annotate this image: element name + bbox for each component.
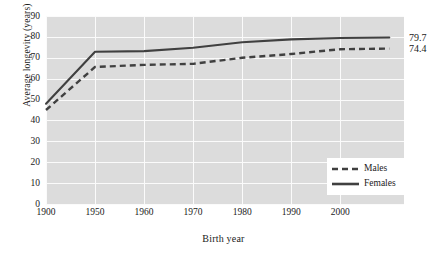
x-tick-label: 1960 xyxy=(121,208,167,218)
x-tick-label: 1900 xyxy=(23,208,69,218)
y-tick-label: 40 xyxy=(10,116,40,126)
y-tick-label: 60 xyxy=(10,74,40,84)
y-tick-label: 80 xyxy=(10,32,40,42)
dashed-line-icon xyxy=(332,161,359,177)
y-tick-label: 50 xyxy=(10,95,40,105)
longevity-line-chart: Average longevity (years) Birth year 010… xyxy=(0,0,447,260)
y-tick-label: 30 xyxy=(10,137,40,147)
solid-line-icon xyxy=(332,176,359,192)
x-tick-label: 2000 xyxy=(317,208,363,218)
y-tick-label: 70 xyxy=(10,53,40,63)
legend: Males Females xyxy=(327,158,406,195)
y-tick-label: 20 xyxy=(10,158,40,168)
x-tick-label: 1970 xyxy=(170,208,216,218)
x-tick-label: 1990 xyxy=(268,208,314,218)
legend-item-females: Females xyxy=(332,176,396,192)
legend-label-males: Males xyxy=(364,164,387,174)
x-tick-label: 1950 xyxy=(72,208,118,218)
legend-item-males: Males xyxy=(332,161,387,177)
y-tick-label: 10 xyxy=(10,179,40,189)
series-line-males xyxy=(46,49,389,110)
x-tick-label: 1980 xyxy=(219,208,265,218)
y-tick-label: 90 xyxy=(10,12,40,22)
end-value-label-males: 74.4 xyxy=(409,44,427,54)
gridline-horizontal xyxy=(46,204,404,205)
legend-label-females: Females xyxy=(364,179,396,189)
series-line-females xyxy=(46,38,389,104)
end-value-label-females: 79.7 xyxy=(409,33,427,43)
x-axis-title: Birth year xyxy=(0,233,447,244)
